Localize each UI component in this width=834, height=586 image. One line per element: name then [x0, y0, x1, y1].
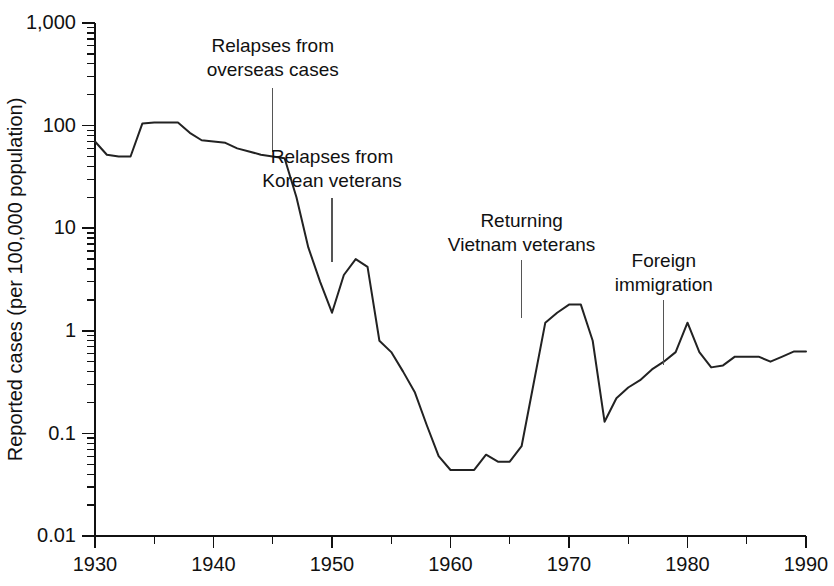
x-axis: 1930194019501960197019801990: [73, 536, 829, 575]
annotation-text-line: Relapses from: [212, 35, 335, 56]
chart-container: 0.010.11101001,000 193019401950196019701…: [0, 0, 834, 586]
y-tick-label: 100: [43, 114, 76, 136]
log-line-chart: 0.010.11101001,000 193019401950196019701…: [0, 0, 834, 586]
annotation-relapses-overseas: Relapses fromoverseas cases: [207, 35, 339, 152]
data-series: [95, 123, 806, 470]
y-tick-label: 1,000: [26, 11, 76, 33]
x-tick-label: 1960: [428, 553, 473, 575]
x-tick-label: 1980: [665, 553, 710, 575]
annotation-text-line: immigration: [615, 274, 713, 295]
x-tick-label: 1930: [73, 553, 118, 575]
annotation-text-line: Korean veterans: [262, 170, 401, 191]
annotation-text-line: Relapses from: [271, 146, 394, 167]
y-axis: 0.010.11101001,000: [26, 11, 95, 546]
x-tick-label: 1970: [547, 553, 592, 575]
annotation-text-line: Returning: [480, 210, 562, 231]
series-line-0: [95, 123, 806, 470]
y-axis-title-text: Reported cases (per 100,000 population): [4, 98, 26, 462]
y-tick-label: 0.01: [37, 524, 76, 546]
y-tick-label: 1: [65, 319, 76, 341]
annotation-text-line: Foreign: [632, 250, 696, 271]
y-axis-title: Reported cases (per 100,000 population): [4, 98, 26, 462]
y-tick-label: 0.1: [48, 422, 76, 444]
y-tick-label: 10: [54, 216, 76, 238]
x-tick-label: 1940: [191, 553, 236, 575]
x-tick-label: 1950: [310, 553, 355, 575]
annotation-returning-vietnam: ReturningVietnam veterans: [448, 210, 596, 318]
annotation-text-line: Vietnam veterans: [448, 234, 596, 255]
annotation-text-line: overseas cases: [207, 59, 339, 80]
annotation-relapses-korean: Relapses fromKorean veterans: [262, 146, 401, 262]
annotations: Relapses fromoverseas casesRelapses from…: [207, 35, 713, 365]
x-tick-label: 1990: [784, 553, 829, 575]
